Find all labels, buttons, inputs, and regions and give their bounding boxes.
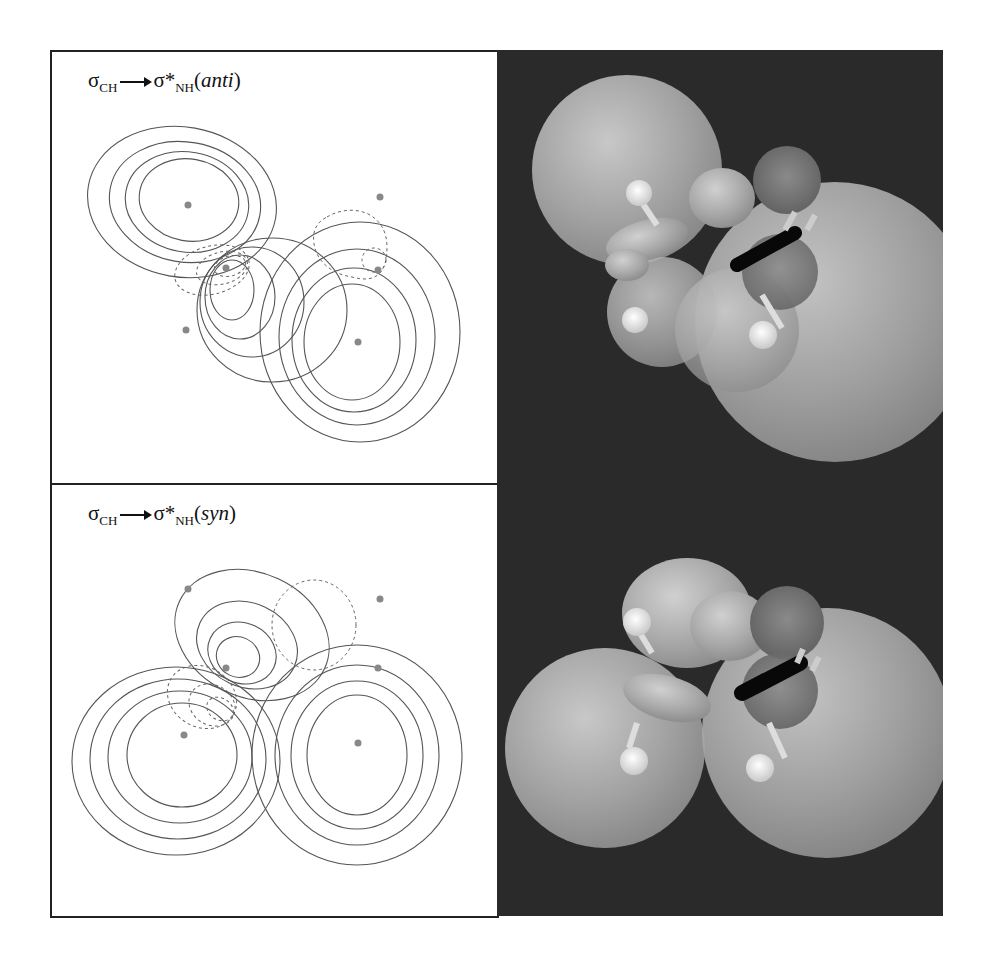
positive-contours <box>75 112 460 442</box>
orbital-renders <box>497 50 943 916</box>
orbital-render-syn <box>505 558 943 858</box>
contour-map-anti <box>52 52 497 483</box>
contour-map-syn <box>52 485 497 916</box>
contour-panel-syn: σCHσ*NH(syn) <box>50 483 499 918</box>
orbital-render-anti <box>532 75 943 462</box>
negative-contours <box>156 580 356 741</box>
contour-plots-column: σCHσ*NH(anti) <box>50 50 497 916</box>
contour-panel-anti: σCHσ*NH(anti) <box>50 50 499 485</box>
positive-contours <box>72 545 462 865</box>
orbital-render-column <box>497 50 943 916</box>
orbital-interaction-figure: σCHσ*NH(anti) <box>50 50 943 916</box>
